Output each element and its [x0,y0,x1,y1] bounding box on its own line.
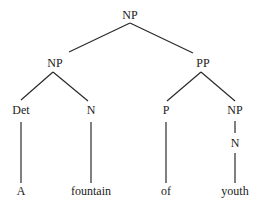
node-pp: PP [196,57,209,69]
edge-np_left-n_left [53,72,88,101]
leaf-fountain: fountain [71,185,111,197]
node-det: Det [12,104,29,116]
edge-root-pp [130,23,193,53]
node-np-right: NP [227,104,242,116]
node-n-right: N [231,137,240,149]
node-n-left: N [87,104,96,116]
leaf-a: A [17,185,26,197]
edge-pp-np_right [201,72,235,101]
node-p: P [163,104,170,116]
node-np-left: NP [47,57,62,69]
leaf-youth: youth [221,185,248,197]
tree-edges [0,0,264,208]
edge-pp-p [167,72,201,101]
syntax-tree-diagram: NP NP PP Det N P NP N A fountain of yout… [0,0,264,208]
edge-root-np_left [69,23,130,52]
leaf-of: of [161,185,171,197]
edge-np_left-det [21,72,53,100]
node-root-np: NP [122,9,137,21]
